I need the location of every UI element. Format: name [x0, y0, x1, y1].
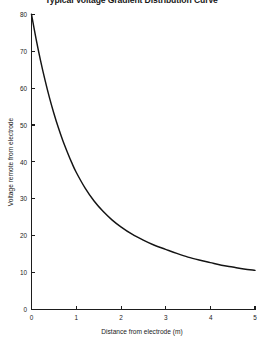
x-tick-label-0: 0	[30, 314, 34, 321]
x-tick-label-5: 5	[253, 314, 257, 321]
y-axis-label: Voltage remote from electrode	[7, 118, 15, 207]
x-axis-label: Distance from electrode (m)	[101, 328, 182, 336]
x-tick-label-3: 3	[164, 314, 168, 321]
y-tick-label-80: 80	[20, 11, 28, 18]
chart-figure: Typical Voltage Gradient Distribution Cu…	[0, 0, 263, 343]
y-tick-label-60: 60	[20, 85, 28, 92]
y-tick-label-50: 50	[20, 122, 28, 129]
x-tick-label-2: 2	[119, 314, 123, 321]
y-tick-label-10: 10	[20, 269, 28, 276]
y-tick-label-70: 70	[20, 48, 28, 55]
y-tick-label-40: 40	[20, 159, 28, 166]
x-tick-label-4: 4	[209, 314, 213, 321]
plot-area: 0 10 20 30 40 50 60 70 80 0 1 2 3 4 5 Di…	[0, 0, 263, 343]
y-tick-label-20: 20	[20, 232, 28, 239]
y-tick-label-30: 30	[20, 195, 28, 202]
x-tick-label-1: 1	[75, 314, 79, 321]
data-series-line	[32, 14, 256, 270]
y-tick-label-0: 0	[23, 306, 27, 313]
